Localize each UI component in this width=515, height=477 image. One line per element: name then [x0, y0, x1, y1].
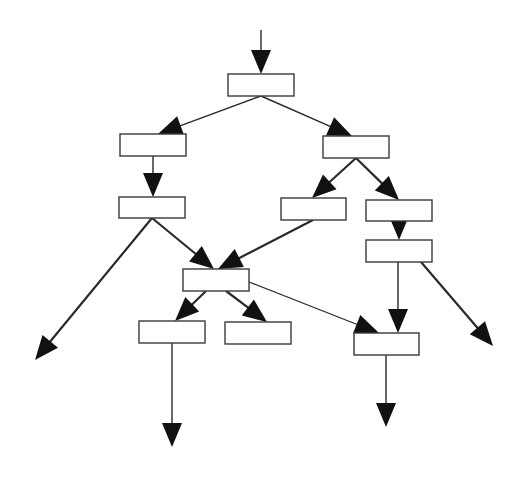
- edge-line: [152, 218, 197, 255]
- edge-line: [249, 282, 359, 325]
- flowchart-node-n11: [354, 333, 419, 355]
- edge-line: [49, 218, 152, 343]
- edge-line: [421, 262, 479, 329]
- flowchart-node-n4: [119, 197, 185, 218]
- edge-line: [328, 158, 356, 183]
- edge-n4-to-exit-left: [35, 218, 152, 360]
- node-box: [366, 200, 432, 221]
- arrowhead-icon: [353, 315, 379, 334]
- nodes-layer: [119, 74, 432, 355]
- node-box: [120, 134, 186, 156]
- edge-n2-to-n4: [143, 156, 163, 197]
- edge-line: [191, 291, 206, 306]
- arrowhead-icon: [388, 309, 408, 333]
- arrowhead-icon: [470, 321, 493, 346]
- edge-n9-to-exit-bottom-left: [162, 343, 182, 447]
- edge-line: [179, 96, 261, 126]
- arrowhead-icon: [143, 173, 163, 197]
- node-box: [366, 240, 432, 262]
- edge-n11-to-exit-bottom-right: [376, 355, 396, 427]
- arrowhead-icon: [242, 300, 267, 323]
- arrowhead-icon: [251, 50, 271, 74]
- edge-n4-to-n8: [152, 218, 214, 269]
- flowchart-node-n10: [225, 322, 291, 344]
- arrowhead-icon: [218, 249, 244, 269]
- arrowhead-icon: [158, 116, 184, 135]
- edge-n7-to-exit-right: [421, 262, 493, 346]
- edge-n3-to-n5: [312, 158, 356, 198]
- flowchart-node-n9: [139, 321, 205, 343]
- flowchart-node-n7: [366, 240, 432, 262]
- edge-n5-to-n8: [218, 220, 313, 269]
- node-box: [183, 269, 249, 291]
- node-box: [139, 321, 205, 343]
- arrowhead-icon: [162, 423, 182, 447]
- node-box: [228, 74, 294, 96]
- edge-line: [356, 158, 383, 185]
- flowchart-node-n5: [281, 198, 346, 220]
- arrowhead-icon: [189, 246, 214, 269]
- edge-n8-to-n9: [175, 291, 206, 321]
- flowchart-diagram: [0, 0, 515, 477]
- flowchart-node-n8: [183, 269, 249, 291]
- edge-n8-to-n10: [226, 291, 267, 322]
- edge-n1-to-n3: [261, 96, 352, 136]
- node-box: [323, 136, 389, 158]
- edge-entry-to-exit: [251, 30, 271, 74]
- edge-n7-to-n11: [388, 262, 408, 333]
- node-box: [119, 197, 185, 218]
- edge-line: [261, 96, 332, 127]
- node-box: [225, 322, 291, 344]
- edge-n1-to-n2: [158, 96, 261, 135]
- edge-line: [238, 220, 313, 259]
- edge-line: [226, 291, 249, 309]
- arrowhead-icon: [376, 403, 396, 427]
- node-box: [281, 198, 346, 220]
- arrowhead-icon: [35, 335, 58, 360]
- flowchart-node-n1: [228, 74, 294, 96]
- node-box: [354, 333, 419, 355]
- flowchart-node-n3: [323, 136, 389, 158]
- flowchart-node-n2: [120, 134, 186, 156]
- edge-n3-to-n6: [356, 158, 399, 200]
- flowchart-node-n6: [366, 200, 432, 221]
